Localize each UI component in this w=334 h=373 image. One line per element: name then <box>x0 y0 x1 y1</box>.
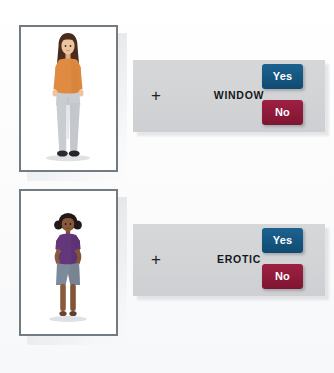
adult-woman-standing-figure <box>21 27 116 170</box>
stimulus-image-frame-1[interactable] <box>19 25 118 172</box>
yes-button[interactable]: Yes <box>262 228 303 253</box>
yes-button[interactable]: Yes <box>262 64 303 89</box>
stimulus-image-frame-2[interactable] <box>19 189 118 336</box>
no-button[interactable]: No <box>262 264 303 289</box>
child-girl-standing-figure <box>21 191 116 334</box>
fixation-cross-2: + <box>148 252 164 268</box>
fixation-cross-1: + <box>148 88 164 104</box>
response-panel-2: + EROTIC Yes No <box>133 224 325 296</box>
no-button[interactable]: No <box>262 100 303 125</box>
task-screen: + WINDOW Yes No <box>0 0 334 373</box>
response-panel-1: + WINDOW Yes No <box>133 60 325 132</box>
